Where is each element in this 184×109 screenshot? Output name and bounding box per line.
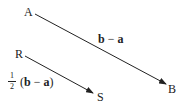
point-a-label: A xyxy=(24,6,33,18)
point-r-label: R xyxy=(15,48,23,60)
vector-rs-label: (b − a) xyxy=(20,76,53,88)
vector-ab-arrow xyxy=(35,14,166,84)
half-fraction: 12 xyxy=(8,72,16,91)
vector-ab-label: b − a xyxy=(98,33,123,45)
point-s-label: S xyxy=(97,91,104,103)
point-b-label: B xyxy=(168,83,176,95)
